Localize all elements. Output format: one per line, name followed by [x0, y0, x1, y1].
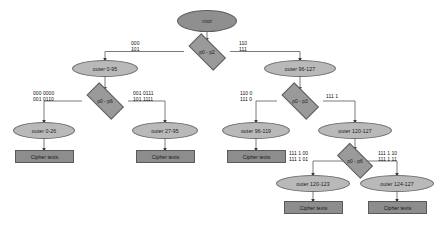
node-cipher-texts-1-label: Cipher texts — [31, 154, 59, 160]
node-outer-0-26-label: outer 0-26 — [32, 128, 57, 134]
node-outer-120-123-label: outer 120-123 — [296, 181, 330, 187]
node-cipher-texts-1[interactable]: Cipher texts — [15, 150, 74, 163]
node-cipher-texts-2-label: Cipher texts — [152, 154, 180, 160]
edge-label-bottom-right-line2: 111 1 11 — [378, 156, 397, 162]
edge-label-right-right-line1: 111 1 — [326, 93, 338, 99]
node-outer-96-127-label: outer 96-127 — [285, 66, 316, 72]
edge-label-left-left-line2: 001 0110 — [33, 96, 54, 102]
node-decision-right-p0-p3[interactable]: p0 - p3 — [277, 89, 323, 112]
edge-label-left-right: 001 0111 101 1111 — [133, 90, 154, 102]
edge-label-root-right-line2: 111 — [239, 46, 247, 52]
node-cipher-texts-4-label: Cipher texts — [300, 205, 328, 211]
node-outer-0-95[interactable]: outer 0-95 — [72, 60, 138, 77]
edge-label-bottom-left: 111 1 00 111 1 01 — [289, 150, 308, 162]
node-decision-bottom-p0-p6[interactable]: p0 - p6 — [333, 149, 377, 172]
edge-label-bottom-right: 111 1 10 111 1 11 — [378, 150, 397, 162]
diagram-canvas: root p0 - p2 000 101 110 111 outer 0-95 … — [0, 0, 434, 225]
edge-label-root-left: 000 101 — [131, 40, 140, 52]
node-root-label: root — [202, 18, 211, 24]
node-outer-27-95-label: outer 27-95 — [151, 128, 179, 134]
node-cipher-texts-4[interactable]: Cipher texts — [284, 201, 343, 214]
node-decision-left-p0-p6[interactable]: p0 - p6 — [82, 89, 128, 112]
node-decision-right-p0-p3-label: p0 - p3 — [292, 98, 308, 104]
node-outer-96-127[interactable]: outer 96-127 — [264, 60, 336, 77]
node-decision-left-p0-p6-label: p0 - p6 — [97, 98, 113, 104]
node-cipher-texts-5[interactable]: Cipher texts — [368, 201, 427, 214]
node-outer-124-127[interactable]: outer 124-127 — [360, 175, 434, 192]
edge-label-right-left-line1: 110 0 — [240, 90, 252, 96]
node-outer-27-95[interactable]: outer 27-95 — [132, 122, 198, 139]
node-root[interactable]: root — [177, 10, 237, 32]
node-outer-120-127-label: outer 120-127 — [338, 128, 372, 134]
node-cipher-texts-3[interactable]: Cipher texts — [227, 150, 286, 163]
node-outer-96-119[interactable]: outer 96-119 — [222, 122, 290, 139]
edge-label-left-left-line1: 000 0000 — [33, 90, 54, 96]
edge-label-left-right-line2: 101 1111 — [133, 96, 154, 102]
edge-label-root-right: 110 111 — [239, 40, 247, 52]
edge-label-right-left-line2: 111 0 — [240, 96, 252, 102]
node-cipher-texts-5-label: Cipher texts — [384, 205, 412, 211]
node-outer-120-127[interactable]: outer 120-127 — [318, 122, 392, 139]
edge-label-root-left-line2: 101 — [131, 46, 140, 52]
node-outer-0-26[interactable]: outer 0-26 — [13, 122, 75, 139]
node-outer-120-123[interactable]: outer 120-123 — [276, 175, 350, 192]
node-outer-96-119-label: outer 96-119 — [241, 128, 271, 134]
node-decision-p0-p2[interactable]: p0 - p2 — [184, 40, 230, 63]
edge-lines — [0, 0, 434, 225]
edge-label-bottom-left-line1: 111 1 00 — [289, 150, 308, 156]
edge-label-bottom-right-line1: 111 1 10 — [378, 150, 397, 156]
edge-label-left-left: 000 0000 001 0110 — [33, 90, 54, 102]
node-outer-124-127-label: outer 124-127 — [380, 181, 414, 187]
edge-label-root-left-line1: 000 — [131, 40, 140, 46]
node-cipher-texts-2[interactable]: Cipher texts — [136, 150, 195, 163]
node-decision-p0-p2-label: p0 - p2 — [199, 49, 215, 55]
edge-label-left-right-line1: 001 0111 — [133, 90, 154, 96]
node-decision-bottom-p0-p6-label: p0 - p6 — [347, 158, 363, 164]
edge-label-root-right-line1: 110 — [239, 40, 247, 46]
node-cipher-texts-3-label: Cipher texts — [243, 154, 271, 160]
node-outer-0-95-label: outer 0-95 — [93, 66, 118, 72]
edge-label-right-left: 110 0 111 0 — [240, 90, 252, 102]
edge-label-right-right: 111 1 — [326, 93, 338, 99]
edge-label-bottom-left-line2: 111 1 01 — [289, 156, 308, 162]
